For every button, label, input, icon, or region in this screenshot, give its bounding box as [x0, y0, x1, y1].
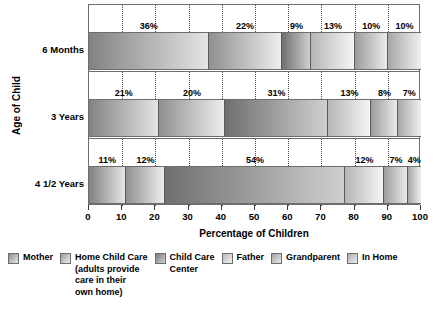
x-axis-tick-label: 40	[206, 211, 236, 222]
bar-segment	[388, 32, 421, 70]
x-axis-tick-label: 100	[405, 211, 435, 222]
bar-segment	[126, 166, 166, 204]
x-axis-tick-label: 90	[372, 211, 402, 222]
legend-label: Home Child Care (adults provide care in …	[75, 252, 148, 298]
x-axis-tick-label: 30	[173, 211, 203, 222]
data-label: 4%	[408, 155, 421, 165]
bar-segment	[355, 32, 388, 70]
x-axis-tick	[287, 205, 288, 210]
bar-segment	[159, 99, 225, 137]
legend-label: Mother	[23, 252, 53, 264]
x-axis-tick	[420, 205, 421, 210]
x-axis-tick-label: 20	[139, 211, 169, 222]
bar-segment	[89, 99, 159, 137]
stacked-bar	[89, 32, 419, 70]
category-label: 4 1/2 Years	[16, 178, 84, 189]
data-label: 36%	[89, 21, 209, 31]
x-axis-title: Percentage of Children	[88, 228, 420, 239]
category-label: 3 Years	[16, 111, 84, 122]
bar-segment	[89, 166, 126, 204]
legend-label: Father	[237, 252, 265, 264]
legend-swatch	[60, 253, 71, 264]
stacked-bar	[89, 99, 419, 137]
x-axis-tick-label: 50	[239, 211, 269, 222]
bar-segment	[282, 32, 312, 70]
bar-segment	[384, 166, 407, 204]
x-axis-tick-label: 0	[73, 211, 103, 222]
x-axis-tick	[121, 205, 122, 210]
legend-item[interactable]: Child Care Center	[155, 252, 215, 275]
x-axis-tick	[387, 205, 388, 210]
data-label-band: 36%22%9%13%10%10%	[89, 5, 419, 32]
bar-segment	[89, 32, 209, 70]
legend-swatch	[271, 253, 282, 264]
chart-row: 11%12%54%12%7%4%	[89, 139, 419, 206]
chart-row: 36%22%9%13%10%10%	[89, 5, 419, 72]
legend-swatch	[155, 253, 166, 264]
legend-item[interactable]: Mother	[8, 252, 53, 264]
data-label: 8%	[371, 88, 398, 98]
x-axis-tick	[88, 205, 89, 210]
data-label: 54%	[165, 155, 344, 165]
x-axis: 0102030405060708090100	[88, 205, 420, 227]
data-label-band: 11%12%54%12%7%4%	[89, 139, 419, 166]
bar-segment	[371, 99, 398, 137]
x-axis-tick-label: 80	[339, 211, 369, 222]
legend: MotherHome Child Care (adults provide ca…	[8, 252, 436, 310]
legend-swatch	[347, 253, 358, 264]
legend-label: In Home	[362, 252, 398, 264]
legend-item[interactable]: In Home	[347, 252, 398, 264]
data-label: 13%	[328, 88, 371, 98]
legend-item[interactable]: Home Child Care (adults provide care in …	[60, 252, 148, 298]
data-label: 7%	[384, 155, 407, 165]
data-label: 22%	[209, 21, 282, 31]
bar-segment	[209, 32, 282, 70]
data-label: 10%	[355, 21, 388, 31]
chart-row: 21%20%31%13%8%7%	[89, 72, 419, 139]
x-axis-tick-label: 60	[272, 211, 302, 222]
data-label: 9%	[282, 21, 312, 31]
x-axis-tick	[154, 205, 155, 210]
stacked-bar	[89, 166, 419, 204]
data-label: 13%	[311, 21, 354, 31]
bar-segment	[165, 166, 344, 204]
bar-segment	[328, 99, 371, 137]
data-label: 7%	[398, 88, 421, 98]
bar-segment	[225, 99, 328, 137]
bar-segment	[345, 166, 385, 204]
category-label-column: 6 Months3 Years4 1/2 Years	[12, 0, 84, 205]
data-label: 21%	[89, 88, 159, 98]
x-axis-tick	[188, 205, 189, 210]
legend-item[interactable]: Father	[222, 252, 265, 264]
legend-item[interactable]: Grandparent	[271, 252, 340, 264]
legend-swatch	[8, 253, 19, 264]
x-axis-tick	[254, 205, 255, 210]
bar-segment	[398, 99, 421, 137]
bar-segment	[408, 166, 421, 204]
x-axis-tick	[320, 205, 321, 210]
category-label: 6 Months	[16, 44, 84, 55]
x-axis-tick-label: 10	[106, 211, 136, 222]
data-label: 12%	[126, 155, 166, 165]
legend-swatch	[222, 253, 233, 264]
data-label: 12%	[345, 155, 385, 165]
data-label: 10%	[388, 21, 421, 31]
legend-label: Grandparent	[286, 252, 340, 264]
data-label: 11%	[89, 155, 126, 165]
legend-label: Child Care Center	[170, 252, 215, 275]
data-label-band: 21%20%31%13%8%7%	[89, 72, 419, 99]
plot-area: 36%22%9%13%10%10%21%20%31%13%8%7%11%12%5…	[88, 4, 420, 205]
bar-segment	[311, 32, 354, 70]
data-label: 31%	[225, 88, 328, 98]
x-axis-tick-label: 70	[305, 211, 335, 222]
x-axis-tick	[354, 205, 355, 210]
data-label: 20%	[159, 88, 225, 98]
chart-root: Age of Child 6 Months3 Years4 1/2 Years …	[0, 0, 439, 311]
x-axis-tick	[221, 205, 222, 210]
